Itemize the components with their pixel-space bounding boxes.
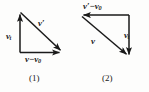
- caption-panel-1: (1): [29, 74, 40, 83]
- label-v-prime-minus-v0-panel-2: v′−v0: [83, 2, 101, 11]
- vector-v-line-panel-2: [82, 17, 127, 55]
- label-v0-subscript-panel-2: 0: [98, 4, 101, 11]
- caption-panel-2: (2): [102, 74, 113, 83]
- label-v-t-subscript-panel-1: t: [10, 34, 12, 41]
- vector-diagram-figure: vt v′ v−v0 (1) v′−v0 v vt (2): [0, 0, 149, 92]
- label-v-t-panel-2: vt: [124, 31, 129, 40]
- label-minus-operator-panel-2: −: [89, 1, 94, 11]
- label-minus-operator-panel-1: −: [29, 54, 34, 64]
- label-v-prime-panel-1: v′: [38, 19, 44, 28]
- label-v-minus-v0-panel-1: v−v0: [25, 55, 41, 64]
- label-v-panel-2: v: [91, 37, 95, 46]
- label-v0-subscript-panel-1: 0: [38, 57, 41, 64]
- label-v-prime-mark-panel-1: ′: [42, 18, 45, 28]
- label-v-t-panel-1: vt: [6, 32, 11, 41]
- panel-1: vt v′ v−v0 (1): [0, 0, 72, 92]
- label-v-t-subscript-panel-2: t: [128, 33, 130, 40]
- panel-2: v′−v0 v vt (2): [72, 0, 149, 92]
